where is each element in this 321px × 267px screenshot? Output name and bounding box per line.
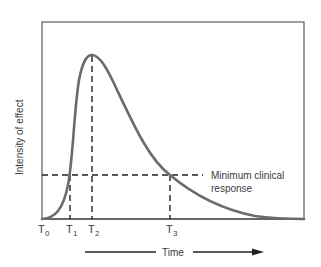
- tick-t3: T 3: [166, 223, 178, 238]
- threshold-label-line2: response: [211, 183, 253, 194]
- arrow-right-icon: [252, 249, 264, 256]
- tick-t2: T 2: [88, 223, 100, 238]
- plot-frame: [42, 22, 304, 219]
- tick-t0: T 0: [38, 223, 50, 238]
- svg-text:3: 3: [173, 229, 178, 238]
- svg-text:T: T: [166, 223, 173, 235]
- svg-text:1: 1: [73, 229, 78, 238]
- time-label: Time: [162, 247, 184, 258]
- svg-text:T: T: [88, 223, 95, 235]
- svg-text:2: 2: [95, 229, 100, 238]
- svg-text:T: T: [38, 223, 45, 235]
- svg-text:0: 0: [45, 229, 50, 238]
- effect-curve: [42, 55, 304, 219]
- tick-t1: T 1: [66, 223, 78, 238]
- chart: Intensity of effect Minimum clinical res…: [0, 0, 321, 267]
- y-axis-label: Intensity of effect: [14, 99, 25, 175]
- threshold-label-line1: Minimum clinical: [211, 170, 284, 181]
- svg-text:T: T: [66, 223, 73, 235]
